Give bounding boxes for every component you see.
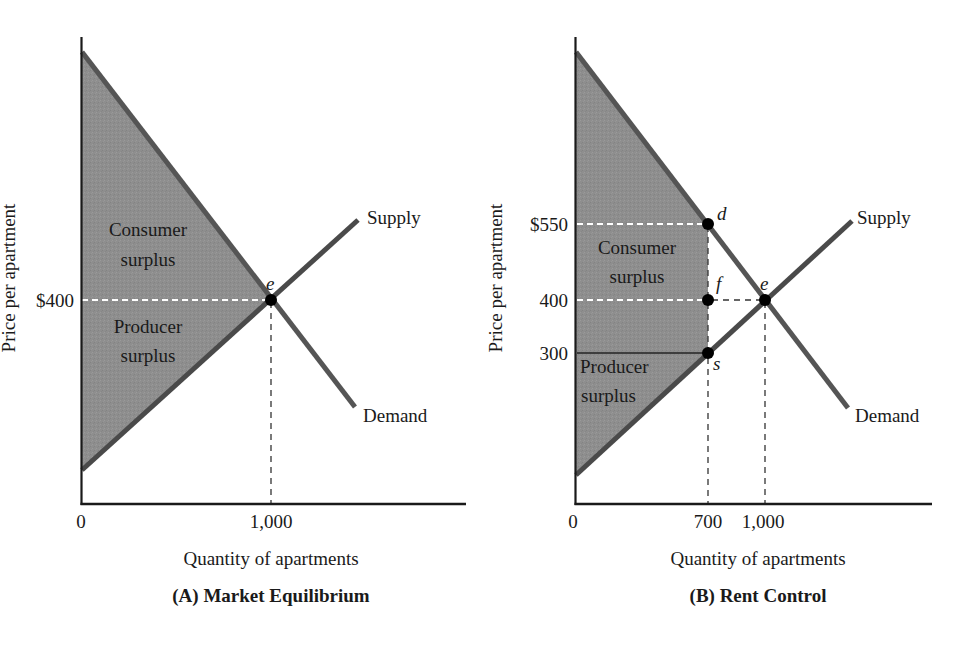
panel-a-ytick-400: $400 [36, 290, 74, 311]
panel-a-xtick-1000: 1,000 [250, 511, 293, 532]
panel-b-point-d-label: d [717, 203, 727, 224]
panel-b-ytick-400: 400 [540, 290, 569, 311]
figure-canvas: e Supply Demand Consumer surplus Produce… [0, 0, 968, 655]
panel-a-producer-surplus-line1: Producer [114, 316, 183, 337]
panel-a-producer-surplus-line2: surplus [121, 345, 176, 366]
panel-b-x-axis-title: Quantity of apartments [670, 548, 845, 569]
panel-b-point-f-label: f [716, 273, 724, 294]
panel-a [81, 37, 467, 505]
panel-a-y-axis-title: Price per apartment [0, 203, 19, 352]
panel-b-point-f [702, 294, 714, 306]
panel-b-ytick-550: $550 [530, 214, 568, 235]
panel-b-supply-label: Supply [857, 207, 911, 228]
panel-b-producer-surplus-line2: surplus [581, 385, 636, 406]
panel-a-demand-label: Demand [363, 405, 428, 426]
panel-b-point-e [759, 294, 771, 306]
panel-b-xtick-700: 700 [694, 511, 723, 532]
panel-b-ytick-300: 300 [540, 343, 569, 364]
panel-b-xtick-0: 0 [568, 511, 578, 532]
panel-a-consumer-surplus-line1: Consumer [109, 219, 188, 240]
panel-a-x-axis-title: Quantity of apartments [183, 548, 358, 569]
panel-a-supply-label: Supply [367, 207, 421, 228]
panel-a-equilibrium-point [265, 294, 277, 306]
panel-a-consumer-surplus-line2: surplus [121, 249, 176, 270]
panel-b-caption: (B) Rent Control [690, 585, 827, 607]
panel-b-point-s-label: s [713, 353, 720, 374]
panel-b-point-d [702, 218, 714, 230]
panel-b-consumer-surplus-line1: Consumer [598, 237, 677, 258]
panel-a-caption: (A) Market Equilibrium [172, 585, 370, 607]
panel-b-point-e-label: e [760, 273, 768, 294]
panel-a-xtick-0: 0 [76, 511, 86, 532]
panel-b-demand-label: Demand [855, 405, 920, 426]
panel-b-y-axis-title: Price per apartment [485, 203, 506, 352]
panel-b-consumer-surplus-line2: surplus [610, 266, 665, 287]
panel-b-producer-surplus-line1: Producer [580, 356, 649, 377]
panel-b-xtick-1000: 1,000 [742, 511, 785, 532]
panel-a-point-e-label: e [266, 273, 274, 294]
